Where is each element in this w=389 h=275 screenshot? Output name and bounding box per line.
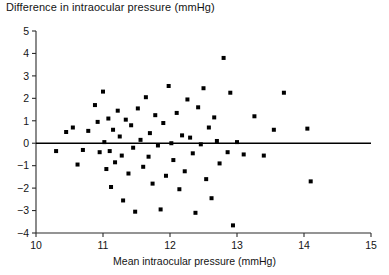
data-point	[262, 154, 266, 158]
data-point	[177, 187, 181, 191]
data-point	[153, 113, 157, 117]
y-axis-tick-label: 0	[23, 137, 29, 149]
y-axis-tick-label: 2	[23, 92, 29, 104]
data-point	[218, 161, 222, 165]
y-axis-tick-label: 5	[23, 25, 29, 37]
x-axis-tick-label: 10	[30, 239, 42, 251]
data-point	[175, 111, 179, 115]
y-axis-tick-label: −2	[17, 182, 29, 194]
data-point	[106, 117, 110, 121]
x-axis-tick-label: 15	[365, 239, 377, 251]
data-point	[139, 138, 143, 142]
x-axis-tick-label: 13	[231, 239, 243, 251]
data-point	[228, 91, 232, 95]
data-point	[108, 149, 112, 153]
data-point	[76, 163, 80, 167]
data-point	[111, 128, 115, 132]
data-point	[151, 182, 155, 186]
data-point	[164, 174, 168, 178]
data-point	[113, 160, 117, 164]
data-point	[215, 139, 219, 143]
data-point	[191, 151, 195, 155]
data-point	[109, 185, 113, 189]
data-point	[54, 149, 58, 153]
data-point	[169, 141, 173, 145]
data-point	[124, 118, 128, 122]
data-point	[126, 172, 130, 176]
data-point	[148, 131, 152, 135]
data-point	[305, 127, 309, 131]
data-point	[81, 148, 85, 152]
data-point	[136, 106, 140, 110]
plot-area: −4−3−2−1012345101112131415	[0, 0, 389, 275]
y-axis-tick-label: −4	[17, 227, 29, 239]
y-axis-tick-label: 3	[23, 70, 29, 82]
y-axis-tick-label: 4	[23, 47, 29, 59]
x-axis-tick-label: 12	[164, 239, 176, 251]
data-point	[141, 165, 145, 169]
y-axis-tick-label: −3	[17, 204, 29, 216]
data-point	[207, 126, 211, 130]
data-point	[193, 211, 197, 215]
data-point	[104, 167, 108, 171]
data-point	[222, 56, 226, 60]
data-point	[101, 90, 105, 94]
data-point	[131, 146, 135, 150]
data-point	[226, 150, 230, 154]
data-point	[309, 179, 313, 183]
data-point	[212, 115, 216, 119]
data-point	[204, 177, 208, 181]
data-point	[156, 143, 160, 147]
data-point	[121, 198, 125, 202]
data-point	[199, 142, 203, 146]
data-point	[116, 109, 120, 113]
data-point	[159, 207, 163, 211]
data-point	[202, 86, 206, 90]
scatter-chart: Difference in intraocular pressure (mmHg…	[0, 0, 389, 275]
data-point	[86, 129, 90, 133]
x-axis-label: Mean intraocular pressure (mmHg)	[0, 255, 389, 267]
x-axis-tick-label: 14	[298, 239, 310, 251]
data-point	[180, 133, 184, 137]
data-point	[161, 121, 165, 125]
data-point	[118, 134, 122, 138]
data-point	[188, 136, 192, 140]
data-point	[144, 95, 148, 99]
data-point	[235, 140, 239, 144]
data-point	[64, 130, 68, 134]
data-point	[171, 158, 175, 162]
data-point	[93, 103, 97, 107]
data-point	[196, 105, 200, 109]
y-axis-tick-label: 1	[23, 115, 29, 127]
data-point	[282, 91, 286, 95]
data-point	[242, 152, 246, 156]
data-point	[129, 123, 133, 127]
data-point	[231, 223, 235, 227]
data-point	[272, 128, 276, 132]
data-point	[102, 140, 106, 144]
data-point	[210, 196, 214, 200]
data-point	[252, 114, 256, 118]
data-point	[133, 210, 137, 214]
data-point	[71, 126, 75, 130]
x-axis-tick-label: 11	[98, 239, 109, 251]
data-point	[98, 150, 102, 154]
data-point	[167, 84, 171, 88]
y-axis-tick-label: −1	[17, 159, 29, 171]
data-point	[96, 120, 100, 124]
data-point	[185, 97, 189, 101]
data-point	[120, 154, 124, 158]
data-point	[147, 155, 151, 159]
data-point	[183, 169, 187, 173]
